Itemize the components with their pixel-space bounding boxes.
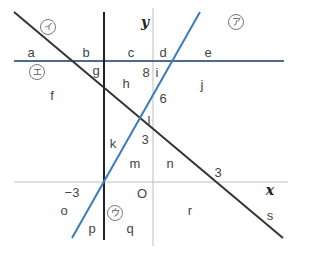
tick-xneg3: −3: [65, 186, 80, 199]
region-h: h: [122, 77, 129, 90]
mark-i-circle: イ: [40, 19, 56, 35]
region-d: d: [159, 46, 166, 59]
region-c: c: [128, 46, 135, 59]
region-n: n: [166, 157, 173, 170]
tick-y6: 6: [159, 92, 166, 105]
intersection-l-label: l: [148, 114, 151, 127]
region-b: b: [82, 46, 89, 59]
mark-e-circle: エ: [29, 64, 45, 80]
region-m: m: [130, 157, 141, 170]
mark-a-circle: ア: [228, 14, 244, 30]
line-a-diagonal: [72, 12, 200, 238]
region-a: a: [27, 46, 34, 59]
region-f: f: [50, 89, 54, 102]
mark-u-circle: ウ: [107, 205, 123, 221]
region-i: i: [156, 66, 159, 79]
region-g: g: [92, 64, 99, 77]
tick-y8: 8: [142, 66, 149, 79]
x-axis-label: x: [266, 183, 274, 197]
region-q: q: [126, 222, 133, 235]
region-e: e: [204, 46, 211, 59]
region-o: o: [60, 204, 67, 217]
region-k: k: [110, 137, 117, 150]
region-s: s: [267, 209, 274, 222]
y-axis-label: y: [141, 15, 149, 29]
region-p: p: [88, 222, 95, 235]
tick-y3: 3: [141, 133, 148, 146]
region-r: r: [188, 204, 192, 217]
origin-label: O: [137, 187, 147, 200]
region-j: j: [201, 78, 204, 91]
tick-x3: 3: [214, 166, 221, 179]
